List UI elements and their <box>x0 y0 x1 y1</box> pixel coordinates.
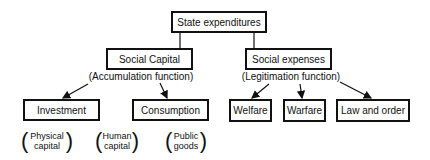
arrow-to-welfare <box>252 84 269 98</box>
right-paren: ) <box>132 130 139 152</box>
state-expenditures-box: State expenditures <box>171 11 267 33</box>
legitimation-function-label: (Legitimation function) <box>239 71 343 82</box>
warfare-box: Warfare <box>283 99 326 122</box>
arrow-to-law-and-order <box>340 82 371 98</box>
note-line1: Public <box>171 131 201 141</box>
right-paren: ) <box>66 130 73 152</box>
accumulation-function-label: (Accumulation function) <box>88 71 194 82</box>
note-line1: Human <box>101 131 133 141</box>
arrow-to-consumption <box>160 83 167 98</box>
warfare-label: Warfare <box>287 105 322 116</box>
social-expenses-box: Social expenses <box>245 48 332 70</box>
welfare-box: Welfare <box>229 99 272 122</box>
human-capital-note: ( Human capital ) <box>101 131 133 151</box>
left-paren: ( <box>95 130 102 152</box>
welfare-label: Welfare <box>233 105 267 116</box>
social-capital-box: Social Capital <box>106 48 193 70</box>
consumption-label: Consumption <box>141 105 200 116</box>
public-goods-note: ( Public goods ) <box>171 131 201 151</box>
state-expenditures-label: State expenditures <box>177 17 260 28</box>
right-paren: ) <box>200 130 207 152</box>
law-and-order-box: Law and order <box>336 99 410 122</box>
social-capital-label: Social Capital <box>119 54 180 65</box>
social-expenses-label: Social expenses <box>252 54 325 65</box>
note-line2: capital <box>27 141 67 151</box>
note-line2: goods <box>171 141 201 151</box>
left-paren: ( <box>165 130 172 152</box>
investment-label: Investment <box>37 105 86 116</box>
arrow-to-investment <box>63 84 88 98</box>
note-line2: capital <box>101 141 133 151</box>
law-and-order-label: Law and order <box>341 105 405 116</box>
investment-box: Investment <box>23 99 100 121</box>
left-paren: ( <box>21 130 28 152</box>
consumption-box: Consumption <box>132 99 209 121</box>
physical-capital-note: ( Physical capital ) <box>27 131 67 151</box>
arrow-to-warfare <box>300 84 302 98</box>
note-line1: Physical <box>27 131 67 141</box>
